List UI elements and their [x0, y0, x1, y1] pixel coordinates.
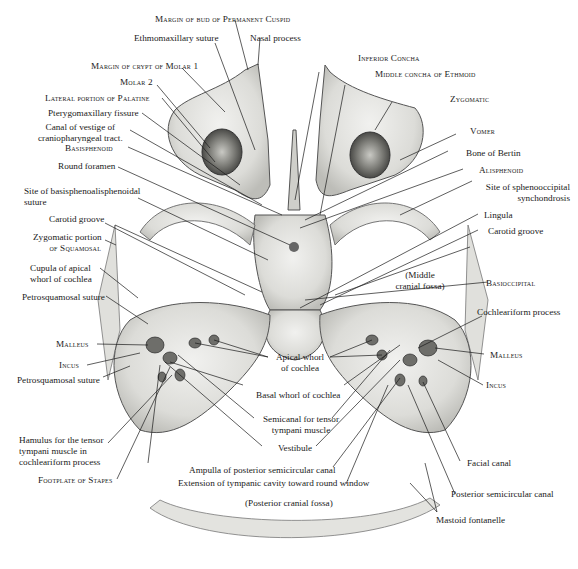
vomer [288, 130, 300, 210]
label-nasal-process: Nasal process [250, 33, 301, 44]
left-petrous-temporal [114, 303, 270, 433]
label-malleus-right: Malleus [490, 350, 523, 361]
label-apical-whorl-cochlea: Apical whorlof cochlea [268, 352, 332, 374]
label-cochleariform-process: Cochleariform process [477, 307, 560, 318]
label-petrosquamosal-suture-upper: Petrosquamosal suture [22, 292, 105, 303]
label-carotid-groove-left: Carotid groove [49, 214, 104, 225]
label-incus-left: Incus [59, 360, 79, 371]
label-cuspid-margin: Margin of bud of Permanent Cuspid [155, 14, 290, 25]
label-lingula: Lingula [484, 210, 513, 221]
label-bone-of-bertin: Bone of Bertin [466, 148, 521, 159]
label-vomer: Vomer [470, 126, 495, 137]
label-basisphenoid: Basisphenoid [65, 143, 113, 154]
left-alisphenoid [140, 203, 255, 245]
label-round-foramen: Round foramen [58, 161, 115, 172]
label-middle-cranial-fossa: (Middlecranial fossa) [390, 270, 450, 292]
label-facial-canal: Facial canal [467, 458, 511, 469]
label-posterior-semicircular-canal: Posterior semicircular canal [451, 489, 554, 500]
label-basisphenoalisphenoidal-suture: Site of basisphenoalisphenoidalsuture [24, 186, 140, 208]
label-middle-concha-ethmoid: Middle concha of Ethmoid [375, 69, 475, 80]
label-zygomatic-portion-squamosal: Zygomatic portionof Squamosal [33, 232, 101, 254]
label-malleus-left: Malleus [56, 339, 89, 350]
canal-vestige-foramen [289, 242, 299, 252]
left-molar-crypt [202, 129, 242, 175]
label-lateral-palatine: Lateral portion of Palatine [45, 93, 150, 104]
label-canal-vestige: Canal of vestige ofcraniopharyngeal trac… [38, 122, 123, 144]
label-footplate-stapes: Footplate of Stapes [38, 475, 112, 486]
anatomical-diagram: Margin of bud of Permanent Cuspid Ethmom… [0, 0, 578, 569]
sphenoid-body [254, 215, 332, 310]
label-sphenooccipital-synchondrosis: Site of sphenooccipitalsynchondrosis [470, 182, 570, 204]
label-ethmomaxillary-suture: Ethmomaxillary suture [134, 33, 218, 44]
label-basal-whorl-cochlea: Basal whorl of cochlea [256, 390, 340, 401]
label-posterior-cranial-fossa: (Posterior cranial fossa) [245, 498, 333, 509]
right-alisphenoid [330, 203, 440, 245]
label-cupula-apical-whorl: Cupula of apicalwhorl of cochlea [30, 263, 92, 285]
label-alisphenoid: Alisphenoid [479, 165, 523, 176]
label-mastoid-fontanelle: Mastoid fontanelle [436, 515, 505, 526]
label-basioccipital: Basioccipital [486, 278, 535, 289]
label-pterygomaxillary-fissure: Pterygomaxillary fissure [48, 108, 139, 119]
label-molar2: Molar 2 [120, 77, 153, 88]
label-ampulla-posterior-semicircular: Ampulla of posterior semicircular canal [189, 465, 335, 476]
label-molar1-crypt-margin: Margin of crypt of Molar 1 [91, 61, 198, 72]
label-semicanal-tensor-tympani: Semicanal for tensortympani muscle [258, 414, 344, 436]
right-molar-crypt [350, 132, 390, 178]
label-zygomatic: Zygomatic [450, 94, 489, 105]
label-incus-right: Incus [486, 380, 506, 391]
label-carotid-groove-right: Carotid groove [488, 226, 543, 237]
label-petrosquamosal-suture-lower: Petrosquamosal suture [17, 375, 100, 386]
label-inferior-concha: Inferior Concha [358, 53, 420, 64]
label-hamulus-tensor-tympani: Hamulus for the tensortympani muscle inc… [19, 435, 103, 468]
label-vestibule: Vestibule [278, 443, 312, 454]
label-extension-tympanic-cavity: Extension of tympanic cavity toward roun… [178, 478, 369, 489]
